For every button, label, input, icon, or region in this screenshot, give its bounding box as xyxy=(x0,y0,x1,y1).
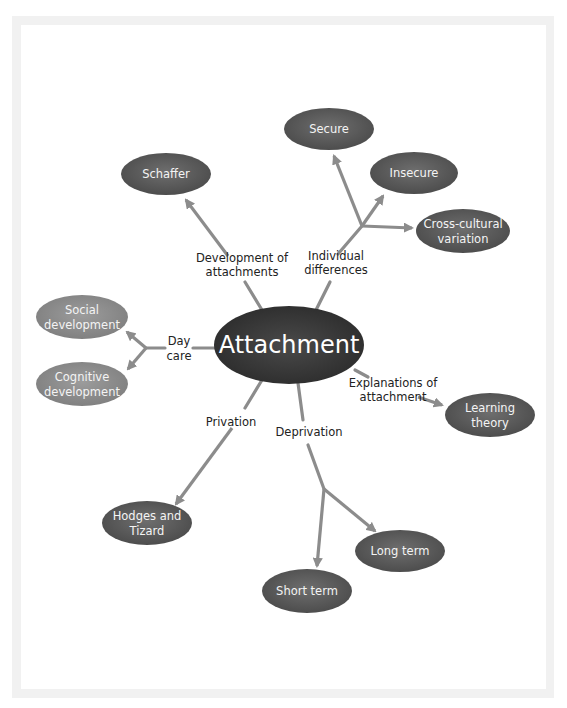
node-social-line2: development xyxy=(44,318,120,332)
branch-explanations-line1: Explanations of xyxy=(349,376,439,390)
branch-individual-line1: Individual xyxy=(308,249,364,263)
node-cross-cultural-line1: Cross-cultural xyxy=(423,217,502,231)
branch-deprivation: Deprivation xyxy=(275,425,342,439)
branch-explanations-of-attachment: Explanations of attachment xyxy=(349,376,439,404)
node-secure[interactable]: Secure xyxy=(284,108,374,150)
node-hodges-and-tizard[interactable]: Hodges and Tizard xyxy=(102,501,192,545)
node-learning-theory[interactable]: Learning theory xyxy=(445,393,535,437)
node-cognitive-line1: Cognitive xyxy=(55,370,109,384)
node-short-term-label: Short term xyxy=(276,584,338,598)
center-label: Attachment xyxy=(219,331,360,359)
node-cognitive-development[interactable]: Cognitive development xyxy=(36,362,128,406)
branch-privation: Privation xyxy=(206,415,257,429)
node-learning-line2: theory xyxy=(471,416,509,430)
node-cognitive-line2: development xyxy=(44,385,120,399)
node-long-term-label: Long term xyxy=(371,544,430,558)
node-short-term[interactable]: Short term xyxy=(262,569,352,613)
node-insecure[interactable]: Insecure xyxy=(370,152,458,194)
branch-individual-differences: Individual differences xyxy=(304,249,368,277)
branch-day-care: Day care xyxy=(167,334,192,363)
mind-map: Schaffer Secure Insecure Cross-cultural … xyxy=(0,0,567,708)
node-hodges-line1: Hodges and xyxy=(113,509,182,523)
branch-deprivation-label: Deprivation xyxy=(275,425,342,439)
node-cross-cultural-line2: variation xyxy=(438,232,489,246)
node-insecure-label: Insecure xyxy=(390,166,439,180)
edge-privation xyxy=(176,380,262,504)
node-cross-cultural-variation[interactable]: Cross-cultural variation xyxy=(416,209,510,253)
node-attachment-center[interactable]: Attachment xyxy=(214,306,364,384)
branch-individual-line2: differences xyxy=(304,263,368,277)
node-hodges-line2: Tizard xyxy=(129,524,165,538)
branch-day-care-line1: Day xyxy=(168,334,191,348)
edge-deprivation xyxy=(298,383,375,566)
node-learning-line1: Learning xyxy=(465,401,515,415)
branch-day-care-line2: care xyxy=(167,349,192,363)
branch-development-line2: attachments xyxy=(206,265,279,279)
node-secure-label: Secure xyxy=(309,122,349,136)
node-schaffer-label: Schaffer xyxy=(142,167,190,181)
branch-development-of-attachments: Development of attachments xyxy=(196,251,289,279)
branch-development-line1: Development of xyxy=(196,251,289,265)
node-social-development[interactable]: Social development xyxy=(36,295,128,339)
node-social-line1: Social xyxy=(65,303,99,317)
branch-privation-label: Privation xyxy=(206,415,257,429)
node-long-term[interactable]: Long term xyxy=(355,530,445,572)
node-schaffer[interactable]: Schaffer xyxy=(121,153,211,195)
branch-explanations-line2: attachment xyxy=(360,390,427,404)
